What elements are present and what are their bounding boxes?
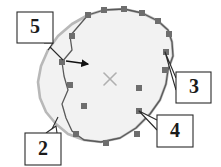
vertex-left-lower (81, 103, 87, 109)
callout-2-tail (46, 126, 57, 133)
callout-2-label: 2 (38, 137, 48, 159)
vertex-upper-left (85, 12, 91, 18)
vertex-top-right (139, 10, 145, 16)
vertex-left-upper (59, 59, 65, 65)
callout-3-label: 3 (189, 75, 199, 97)
vertex-top-right-mid (121, 6, 127, 12)
diagram-figure: 5234 (0, 0, 221, 167)
callout-4[interactable]: 4 (139, 111, 193, 147)
callout-5-label: 5 (30, 15, 40, 37)
vertex-bottom-mid (103, 140, 109, 146)
vertex-bottom-right (134, 131, 140, 137)
diagram-canvas: 5234 (0, 0, 221, 167)
vertex-upper-left-mid (69, 33, 75, 39)
vertex-left-mid (67, 82, 73, 88)
vertex-right-shoulder (166, 31, 172, 37)
vertex-top-left-mid (101, 7, 107, 13)
vertex-right-mid (162, 67, 168, 73)
callout-5[interactable]: 5 (17, 12, 63, 60)
callout-4-label: 4 (170, 119, 180, 141)
vertex-right-upper (155, 18, 161, 24)
vertex-bottom-left (73, 131, 79, 137)
vertex-interior-right-upper (136, 85, 142, 91)
